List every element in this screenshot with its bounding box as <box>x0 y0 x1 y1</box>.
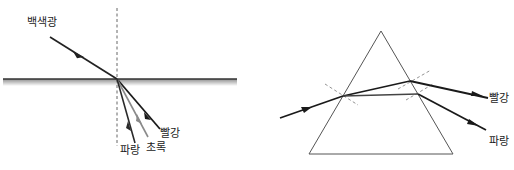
blue-label: 파랑 <box>120 145 140 156</box>
red-label: 빨강 <box>160 128 180 139</box>
exit-normal-red-dashed <box>398 70 431 89</box>
prism-blue-label: 파랑 <box>489 136 509 147</box>
inside-ray-red <box>343 81 410 96</box>
incoming-arrow-icon <box>301 107 312 113</box>
blue-exit-arrow-icon <box>467 119 479 126</box>
incident-arrow-icon <box>73 52 84 59</box>
prism-triangle <box>309 31 453 154</box>
dispersion-at-surface-diagram: 백색광 빨강 초록 파랑 <box>0 0 257 170</box>
prism-figure <box>257 0 514 170</box>
white-light-label: 백색광 <box>27 17 57 28</box>
incident-ray <box>50 37 117 79</box>
prism-dispersion-diagram: 빨강 파랑 <box>257 0 514 170</box>
red-exit-arrow-icon <box>471 91 483 96</box>
green-arrow-icon <box>136 114 142 124</box>
prism-red-label: 빨강 <box>489 93 509 104</box>
green-label: 초록 <box>146 142 166 153</box>
refracted-ray-green <box>117 79 148 137</box>
